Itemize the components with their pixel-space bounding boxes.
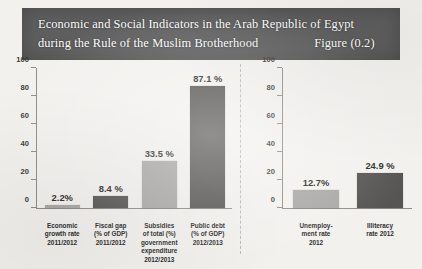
y-tick-mark: [277, 151, 282, 152]
y-tick-label: 60: [21, 111, 29, 120]
y-tick-label: 20: [21, 167, 29, 176]
bar-value-label: 87.1 %: [193, 73, 222, 84]
bar-value-label: 24.9 %: [365, 160, 394, 171]
y-tick-label: 60: [267, 111, 275, 120]
left-bar-chart: 020406080100 2.2%8.4 %33.5 %87.1 % Econo…: [6, 62, 238, 269]
x-axis-category-label: Illiteracyrate 2012: [348, 222, 412, 247]
bar-1[interactable]: 12.7%: [293, 190, 339, 208]
y-tick-mark: [31, 151, 36, 152]
bar-4[interactable]: 87.1 %: [190, 86, 225, 208]
x-axis-category-label: Fiscal gap(% of GDP)2011/2012: [87, 222, 136, 264]
bar-2[interactable]: 24.9 %: [357, 173, 403, 208]
charts-container: 020406080100 2.2%8.4 %33.5 %87.1 % Econo…: [0, 62, 422, 269]
bar-slot: 12.7%: [284, 68, 348, 208]
chart-divider: [240, 64, 241, 254]
y-tick-mark: [31, 67, 36, 68]
y-tick-mark: [277, 179, 282, 180]
y-tick-label: 40: [21, 139, 29, 148]
x-axis-category-label: Subsidiesof total (%)governmentexpenditu…: [135, 222, 184, 264]
y-tick-mark: [31, 95, 36, 96]
figure-header-banner: Economic and Social Indicators in the Ar…: [22, 8, 400, 60]
x-axis-category-label: Unemploy-ment rate2012: [284, 222, 348, 247]
right-chart-x-labels: Unemploy-ment rate2012Illiteracyrate 201…: [284, 222, 412, 247]
y-tick-label: 20: [267, 167, 275, 176]
bar-value-label: 8.4 %: [99, 183, 123, 194]
y-tick-mark: [31, 123, 36, 124]
right-chart-x-axis: [282, 208, 412, 209]
right-chart-bars: 12.7%24.9 %: [284, 68, 412, 208]
right-chart-y-axis: 020406080100: [282, 68, 283, 208]
bar-value-label: 12.7%: [303, 177, 330, 188]
bar-slot: 87.1 %: [184, 68, 233, 208]
bar-slot: 8.4 %: [87, 68, 136, 208]
bar-slot: 24.9 %: [348, 68, 412, 208]
x-axis-category-label: Economicgrowth rate2011/2012: [38, 222, 87, 264]
left-chart-bars: 2.2%8.4 %33.5 %87.1 %: [38, 68, 232, 208]
y-tick-label: 80: [267, 83, 275, 92]
y-tick-mark: [31, 179, 36, 180]
left-chart-x-axis: [36, 208, 232, 209]
bar-value-label: 33.5 %: [145, 148, 174, 159]
figure-number-label: Figure (0.2): [314, 34, 374, 53]
y-tick-label: 0: [25, 195, 29, 204]
figure-page: Economic and Social Indicators in the Ar…: [0, 0, 422, 269]
bar-2[interactable]: 8.4 %: [93, 196, 128, 208]
bar-value-label: 2.2%: [52, 192, 73, 203]
bar-1[interactable]: 2.2%: [45, 205, 80, 208]
y-tick-label: 0: [271, 195, 275, 204]
y-tick-label: 100: [16, 55, 29, 64]
y-tick-label: 100: [262, 55, 275, 64]
bar-slot: 2.2%: [38, 68, 87, 208]
x-axis-category-label: Public debt(% of GDP)2012/2013: [184, 222, 233, 264]
right-bar-chart: 020406080100 12.7%24.9 % Unemploy-ment r…: [248, 62, 420, 269]
y-tick-mark: [277, 67, 282, 68]
y-tick-label: 40: [267, 139, 275, 148]
figure-title-line-2: during the Rule of the Muslim Brotherhoo…: [38, 34, 258, 53]
y-tick-mark: [277, 123, 282, 124]
y-tick-label: 80: [21, 83, 29, 92]
left-chart-y-axis: 020406080100: [36, 68, 37, 208]
bar-slot: 33.5 %: [135, 68, 184, 208]
left-chart-x-labels: Economicgrowth rate2011/2012Fiscal gap(%…: [38, 222, 232, 264]
y-tick-mark: [277, 95, 282, 96]
bar-3[interactable]: 33.5 %: [142, 161, 177, 208]
figure-title-line-1: Economic and Social Indicators in the Ar…: [38, 15, 386, 34]
